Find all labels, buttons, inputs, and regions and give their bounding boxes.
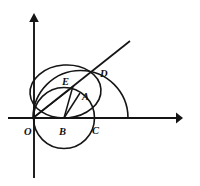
axes-group (8, 13, 183, 178)
geometry-figure-container: O B C E A D (0, 0, 200, 186)
x-axis-arrow-icon (176, 113, 183, 124)
segment-B-to-A (64, 93, 80, 118)
point-labels-group: O B C E A D (24, 68, 108, 137)
lines-group (33, 41, 130, 118)
outer-semicircle-arc (33, 71, 128, 118)
label-point-D: D (99, 68, 108, 79)
label-point-C: C (92, 125, 100, 136)
label-point-A: A (81, 91, 89, 102)
y-axis-arrow-icon (29, 13, 39, 22)
curves-group (28, 63, 128, 149)
label-point-E: E (61, 76, 69, 87)
label-point-B: B (58, 126, 66, 137)
geometry-canvas: O B C E A D (0, 0, 200, 186)
label-point-O: O (24, 126, 32, 137)
